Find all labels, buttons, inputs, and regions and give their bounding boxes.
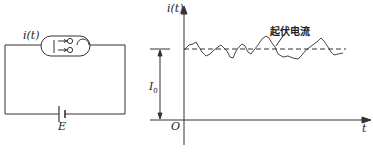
y-axis-label: i(t) xyxy=(167,2,184,15)
battery-label: E xyxy=(58,120,66,133)
mean-label: I0 xyxy=(149,80,158,95)
graph xyxy=(150,6,371,145)
x-axis-label: t xyxy=(362,122,366,135)
fluctuating-current-curve xyxy=(184,36,343,59)
electron-2 xyxy=(67,47,72,52)
origin-label: O xyxy=(171,120,180,133)
curve-annotation: 起伏电流 xyxy=(270,23,310,38)
electron-1 xyxy=(67,38,72,43)
circuit xyxy=(5,36,125,122)
anode xyxy=(77,39,89,45)
current-label: i(t) xyxy=(23,29,40,42)
circuit-wire xyxy=(5,45,125,114)
diagram-canvas xyxy=(0,0,373,154)
